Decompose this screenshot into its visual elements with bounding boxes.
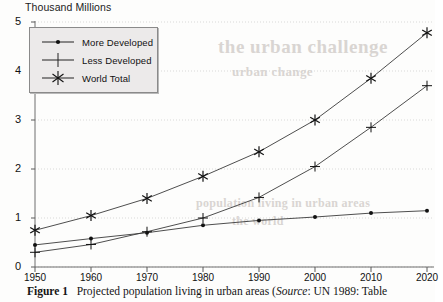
figure-caption-source-ref: : UN 1989: Table: [307, 285, 387, 297]
y-axis-tick-3: 3: [5, 113, 21, 125]
figure-caption: Figure 1 Projected population living in …: [27, 285, 432, 297]
figure-caption-text: Projected population living in urban are…: [77, 285, 276, 297]
y-axis-tick-2: 2: [5, 162, 21, 174]
star-marker-icon: [38, 69, 78, 87]
x-axis-tick-2010: 2010: [351, 272, 391, 283]
y-axis-tick-0: 0: [5, 260, 21, 272]
legend-item-more-developed: More Developed: [38, 33, 153, 51]
x-axis-tick-1980: 1980: [183, 272, 223, 283]
x-axis-tick-1990: 1990: [239, 272, 279, 283]
figure-caption-label: Figure 1: [27, 285, 68, 297]
y-axis-tick-4: 4: [5, 64, 21, 76]
figure-caption-source-label: Source: [276, 285, 308, 297]
y-axis-tick-1: 1: [5, 211, 21, 223]
plus-marker-icon: [38, 51, 78, 69]
x-axis-tick-2020: 2020: [407, 272, 443, 283]
x-axis-tick-1970: 1970: [127, 272, 167, 283]
y-axis-tick-5: 5: [5, 15, 21, 27]
legend-label-less-developed: Less Developed: [82, 55, 152, 66]
legend-label-more-developed: More Developed: [82, 37, 153, 48]
chart-legend: More Developed Less Developed World Tota…: [29, 27, 158, 93]
legend-item-less-developed: Less Developed: [38, 51, 152, 69]
dot-marker-icon: [38, 33, 78, 51]
x-axis-tick-1960: 1960: [71, 272, 111, 283]
x-axis-tick-1950: 1950: [15, 272, 55, 283]
legend-label-world-total: World Total: [82, 73, 130, 84]
x-axis-tick-2000: 2000: [295, 272, 335, 283]
legend-item-world-total: World Total: [38, 69, 130, 87]
